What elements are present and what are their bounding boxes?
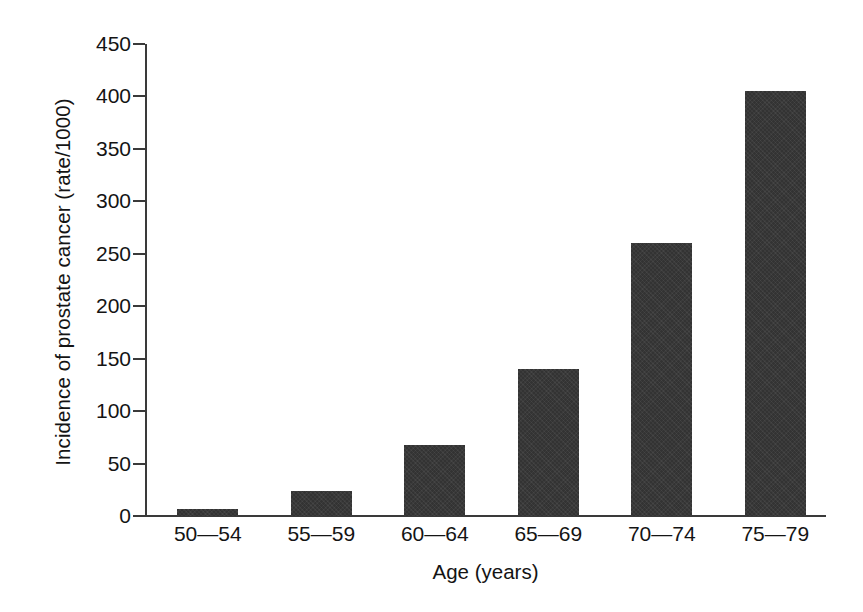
y-axis-tick-label: 350 xyxy=(57,138,131,159)
y-axis-tick-label: 300 xyxy=(57,190,131,211)
x-axis-tick-label: 75—79 xyxy=(719,522,833,546)
x-axis-tick-label: 60—64 xyxy=(378,522,492,546)
y-axis-tick-label: 50 xyxy=(57,453,131,474)
bars-layer xyxy=(145,44,826,516)
bar xyxy=(177,509,238,516)
y-axis-tick-label: 0 xyxy=(57,505,131,526)
x-axis-title: Age (years) xyxy=(145,560,826,584)
y-axis-tick xyxy=(133,463,145,465)
x-axis-tick-label: 55—59 xyxy=(265,522,379,546)
y-axis-tick xyxy=(133,410,145,412)
y-axis-tick xyxy=(133,43,145,45)
y-axis-tick xyxy=(133,358,145,360)
bar xyxy=(631,243,692,516)
x-axis-tick-labels: 50—5455—5960—6465—6970—7475—79 xyxy=(145,522,826,554)
x-axis-tick-label: 65—69 xyxy=(492,522,606,546)
bar xyxy=(518,369,579,516)
y-axis-tick-label: 200 xyxy=(57,295,131,316)
x-axis-tick-label: 50—54 xyxy=(151,522,265,546)
y-axis-tick-label: 400 xyxy=(57,85,131,106)
y-axis-tick xyxy=(133,148,145,150)
y-axis-tick xyxy=(133,515,145,517)
x-axis-tick-label: 70—74 xyxy=(605,522,719,546)
bar xyxy=(745,91,806,516)
y-axis-title: Incidence of prostate cancer (rate/1000) xyxy=(51,72,75,492)
y-axis-tick xyxy=(133,200,145,202)
y-axis-tick xyxy=(133,305,145,307)
y-axis-tick-label: 450 xyxy=(57,33,131,54)
bar xyxy=(291,491,352,516)
y-axis-tick xyxy=(133,253,145,255)
y-axis-tick-label: 100 xyxy=(57,400,131,421)
y-axis-tick-label: 150 xyxy=(57,348,131,369)
bar-chart: Incidence of prostate cancer (rate/1000)… xyxy=(0,0,863,612)
bar xyxy=(404,445,465,516)
y-axis-tick-label: 250 xyxy=(57,243,131,264)
y-axis-tick xyxy=(133,95,145,97)
